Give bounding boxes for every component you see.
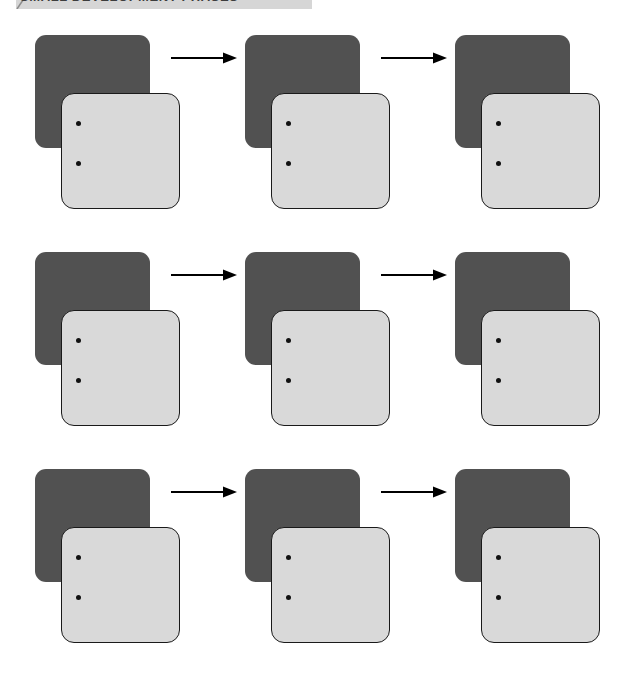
figure-cell[interactable]: [445, 455, 635, 651]
figure-cell[interactable]: [445, 21, 635, 217]
card-pair[interactable]: [25, 21, 180, 217]
card-pair[interactable]: [235, 455, 390, 651]
figure-cell[interactable]: [25, 21, 215, 217]
card-dot: [496, 121, 501, 126]
card-dot: [286, 595, 291, 600]
arrow-right-icon: [381, 51, 447, 65]
figure-cell[interactable]: [235, 21, 425, 217]
diagram-grid: [0, 9, 635, 673]
front-card[interactable]: [61, 527, 180, 643]
card-dot: [286, 161, 291, 166]
figure-cell[interactable]: [25, 455, 215, 651]
card-dot: [286, 555, 291, 560]
card-pair[interactable]: [235, 21, 390, 217]
card-dot: [76, 121, 81, 126]
card-dot: [496, 378, 501, 383]
front-card[interactable]: [271, 93, 390, 209]
card-dot: [286, 121, 291, 126]
arrow-right-icon: [171, 268, 237, 282]
card-pair[interactable]: [235, 238, 390, 434]
card-pair[interactable]: [445, 21, 600, 217]
card-dot: [496, 161, 501, 166]
card-pair[interactable]: [25, 455, 180, 651]
card-dot: [496, 595, 501, 600]
front-card[interactable]: [481, 93, 600, 209]
card-dot: [496, 338, 501, 343]
front-card[interactable]: [271, 310, 390, 426]
header-title: SMALL DEVELOPMENT PHASES: [20, 0, 239, 3]
diagram-row: [0, 455, 635, 651]
arrow-right-icon: [381, 485, 447, 499]
front-card[interactable]: [61, 93, 180, 209]
card-dot: [496, 555, 501, 560]
figure-cell[interactable]: [235, 455, 425, 651]
card-dot: [286, 378, 291, 383]
front-card[interactable]: [481, 527, 600, 643]
card-dot: [76, 555, 81, 560]
front-card[interactable]: [271, 527, 390, 643]
figure-cell[interactable]: [445, 238, 635, 434]
header-banner: SMALL DEVELOPMENT PHASES: [16, 0, 312, 9]
card-pair[interactable]: [25, 238, 180, 434]
figure-cell[interactable]: [25, 238, 215, 434]
card-dot: [76, 595, 81, 600]
front-card[interactable]: [481, 310, 600, 426]
arrow-right-icon: [381, 268, 447, 282]
card-dot: [76, 338, 81, 343]
front-card[interactable]: [61, 310, 180, 426]
arrow-right-icon: [171, 485, 237, 499]
card-dot: [76, 378, 81, 383]
figure-cell[interactable]: [235, 238, 425, 434]
card-pair[interactable]: [445, 455, 600, 651]
diagram-row: [0, 238, 635, 434]
card-dot: [76, 161, 81, 166]
arrow-right-icon: [171, 51, 237, 65]
card-pair[interactable]: [445, 238, 600, 434]
diagram-row: [0, 21, 635, 217]
card-dot: [286, 338, 291, 343]
